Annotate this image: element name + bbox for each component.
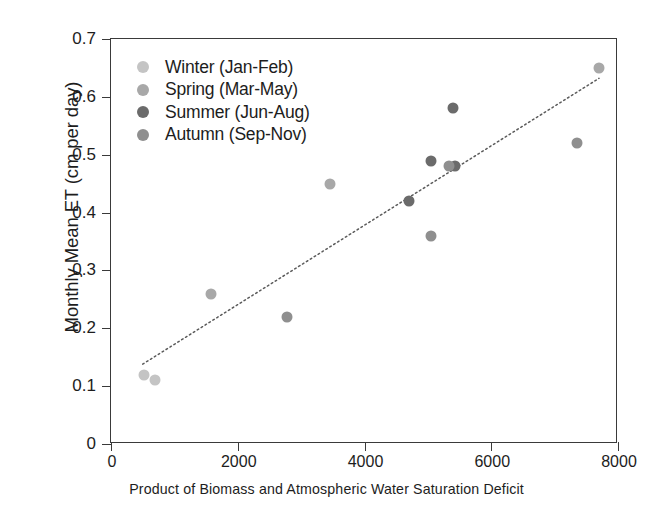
y-tick: 0.1 xyxy=(102,386,111,387)
scatter-plot-figure: Monthly Mean ET (cm per day) 00.10.20.30… xyxy=(0,0,653,517)
legend-label: Spring (Mar-May) xyxy=(165,79,298,100)
x-axis-title: Product of Biomass and Atmospheric Water… xyxy=(0,481,653,497)
x-tick-label: 6000 xyxy=(474,453,510,471)
x-tick-label: 0 xyxy=(108,453,117,471)
x-tick: 6000 xyxy=(491,442,492,451)
x-tick-label: 2000 xyxy=(221,453,257,471)
x-tick: 2000 xyxy=(238,442,239,451)
y-tick-label: 0.2 xyxy=(72,318,96,338)
data-point xyxy=(324,178,335,189)
y-tick-label: 0.1 xyxy=(72,376,96,396)
legend-marker-icon xyxy=(137,129,149,141)
data-point xyxy=(448,103,459,114)
legend-item: Autumn (Sep-Nov) xyxy=(137,124,310,147)
y-tick: 0.7 xyxy=(102,39,111,40)
data-point xyxy=(426,230,437,241)
y-tick: 0.4 xyxy=(102,213,111,214)
y-tick-label: 0.3 xyxy=(72,260,96,280)
y-tick: 0.3 xyxy=(102,270,111,271)
legend-marker-icon xyxy=(137,106,149,118)
y-tick-label: 0.4 xyxy=(72,203,96,223)
data-point xyxy=(150,375,161,386)
data-point xyxy=(138,369,149,380)
y-tick-label: 0.7 xyxy=(72,29,96,49)
x-tick-label: 4000 xyxy=(348,453,384,471)
legend-item: Spring (Mar-May) xyxy=(137,79,310,102)
legend-label: Summer (Jun-Aug) xyxy=(165,102,310,123)
data-point xyxy=(206,288,217,299)
data-point xyxy=(571,138,582,149)
legend-marker-icon xyxy=(137,61,149,73)
y-tick: 0.5 xyxy=(102,155,111,156)
legend-label: Winter (Jan-Feb) xyxy=(165,57,293,78)
y-tick: 0.6 xyxy=(102,97,111,98)
y-tick-label: 0.6 xyxy=(72,87,96,107)
data-point xyxy=(403,196,414,207)
data-point xyxy=(593,62,604,73)
legend-item: Summer (Jun-Aug) xyxy=(137,101,310,124)
y-tick: 0 xyxy=(102,444,111,445)
y-tick-label: 0 xyxy=(87,434,96,454)
x-tick-label: 8000 xyxy=(601,453,637,471)
data-point xyxy=(282,311,293,322)
x-tick: 0 xyxy=(111,442,112,451)
data-point xyxy=(443,161,454,172)
legend-item: Winter (Jan-Feb) xyxy=(137,56,310,79)
x-tick: 8000 xyxy=(618,442,619,451)
x-tick: 4000 xyxy=(365,442,366,451)
y-tick: 0.2 xyxy=(102,328,111,329)
y-tick-label: 0.5 xyxy=(72,145,96,165)
data-point xyxy=(426,155,437,166)
plot-area: 00.10.20.30.40.50.60.7 02000400060008000… xyxy=(110,38,617,443)
legend: Winter (Jan-Feb)Spring (Mar-May)Summer (… xyxy=(137,56,310,146)
legend-label: Autumn (Sep-Nov) xyxy=(165,124,307,145)
legend-marker-icon xyxy=(137,84,149,96)
